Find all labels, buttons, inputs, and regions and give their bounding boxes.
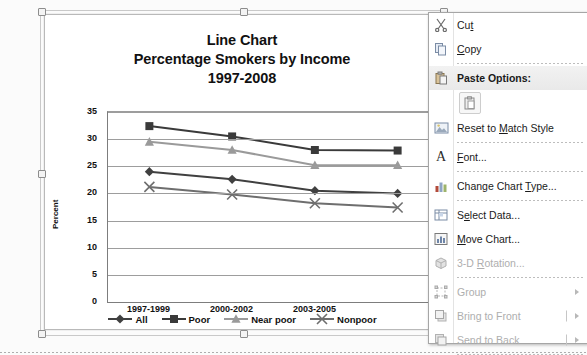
paste-options-row [429, 90, 587, 116]
plot-grid [107, 111, 439, 303]
legend-marker-triangle [223, 313, 249, 325]
submenu-arrow-icon [575, 289, 579, 295]
gridline [108, 248, 439, 249]
menu-item-reset-to-match-style[interactable]: Reset to Match Style [429, 116, 587, 140]
menu-item-cut[interactable]: Cut [429, 13, 587, 37]
chart-area[interactable]: Line Chart Percentage Smokers by Income … [44, 14, 440, 330]
page-bottom-edge [0, 352, 587, 353]
gridline [108, 166, 439, 167]
legend-marker-square [161, 313, 187, 325]
legend-label: Near poor [251, 314, 296, 325]
menu-separator [457, 200, 583, 201]
y-axis-tick: 30 [71, 133, 97, 143]
y-axis-tick: 35 [71, 106, 97, 116]
menu-item-label: Bring to Front [457, 310, 521, 322]
menu-item-send-to-back: Send to Back [429, 328, 587, 352]
menu-item-move-chart[interactable]: Move Chart... [429, 227, 587, 251]
series-near-poor[interactable] [145, 137, 402, 169]
y-axis-tick: 20 [71, 187, 97, 197]
menu-item-label: Paste Options: [457, 72, 531, 84]
data-point-marker [145, 167, 154, 176]
menu-item-bring-to-front: Bring to Front [429, 304, 587, 328]
menu-separator [457, 171, 583, 172]
y-axis-ticks: 35302520151050 [71, 111, 97, 301]
data-point-marker [170, 315, 178, 323]
y-axis-title: Percent [51, 215, 60, 229]
legend-marker-diamond [107, 313, 133, 325]
series-line [149, 142, 397, 165]
menu-item-3-d-rotation: 3-D Rotation... [429, 251, 587, 275]
data-point-marker [145, 122, 153, 130]
y-axis-tick: 25 [71, 160, 97, 170]
send-back-icon [432, 331, 450, 349]
chart-legend[interactable]: AllPoorNear poorNonpoor [45, 313, 439, 325]
legend-marker-cross [309, 313, 335, 325]
menu-item-divider [566, 311, 567, 322]
submenu-arrow-icon [575, 313, 579, 319]
menu-item-label: Select Data... [457, 209, 520, 221]
data-point-marker [228, 175, 237, 184]
menu-separator [457, 63, 583, 64]
paste-icon [432, 69, 450, 87]
series-nonpoor[interactable] [144, 182, 402, 213]
legend-item-near-poor[interactable]: Near poor [223, 313, 296, 325]
gridline [108, 193, 439, 194]
gridline [108, 221, 439, 222]
menu-separator [457, 277, 583, 278]
resize-handle-bottom-center[interactable] [240, 330, 248, 338]
menu-item-label: Cut [457, 19, 473, 31]
legend-label: All [135, 314, 147, 325]
menu-item-change-chart-type[interactable]: Change Chart Type... [429, 174, 587, 198]
copy-icon [432, 40, 450, 58]
menu-item-divider [566, 335, 567, 346]
menu-item-group: Group [429, 280, 587, 304]
y-axis-tick: 0 [71, 296, 97, 306]
font-a-icon: A [432, 148, 450, 166]
context-menu[interactable]: CutCopyPaste Options:Reset to Match Styl… [428, 12, 587, 344]
gridline [108, 112, 439, 113]
y-axis-tick: 10 [71, 242, 97, 252]
gridline [108, 139, 439, 140]
chart-title-line-1: Line Chart [45, 31, 439, 50]
chart-title-line-3: 1997-2008 [45, 69, 439, 88]
y-axis-tick: 15 [71, 215, 97, 225]
legend-item-all[interactable]: All [107, 313, 147, 325]
submenu-arrow-icon [575, 337, 579, 343]
legend-item-nonpoor[interactable]: Nonpoor [309, 313, 377, 325]
bar-chart-icon [432, 177, 450, 195]
menu-item-label: Font... [457, 151, 487, 163]
data-point-marker [311, 146, 319, 154]
legend-item-poor[interactable]: Poor [161, 313, 211, 325]
bring-front-icon [432, 307, 450, 325]
menu-item-label: Reset to Match Style [457, 122, 554, 134]
menu-item-select-data[interactable]: Select Data... [429, 203, 587, 227]
clipboard-icon[interactable] [459, 92, 481, 114]
menu-item-paste-options[interactable]: Paste Options: [429, 66, 587, 90]
legend-label: Poor [189, 314, 211, 325]
scissors-icon [432, 16, 450, 34]
y-axis-tick: 5 [71, 269, 97, 279]
move-chart-icon [432, 230, 450, 248]
menu-item-copy[interactable]: Copy [429, 37, 587, 61]
series-lines [108, 112, 439, 302]
resize-handle-bottom-left[interactable] [38, 330, 46, 338]
chart-title[interactable]: Line Chart Percentage Smokers by Income … [45, 31, 439, 88]
data-point-marker [394, 147, 402, 155]
select-data-icon [432, 206, 450, 224]
gridline [108, 275, 439, 276]
group-icon [432, 283, 450, 301]
legend-label: Nonpoor [337, 314, 377, 325]
menu-item-label: Change Chart Type... [457, 180, 557, 192]
plot-area[interactable]: Percent 35302520151050 1997-19992000-200… [45, 111, 439, 301]
cube-icon [432, 254, 450, 272]
chart-title-line-2: Percentage Smokers by Income [45, 50, 439, 69]
series-line [149, 187, 397, 208]
slide-canvas: Line Chart Percentage Smokers by Income … [0, 0, 587, 355]
picture-icon [432, 119, 450, 137]
menu-item-font[interactable]: AFont... [429, 145, 587, 169]
menu-item-label: Copy [457, 43, 482, 55]
menu-item-label: Group [457, 286, 486, 298]
menu-separator [457, 142, 583, 143]
menu-item-label: 3-D Rotation... [457, 257, 525, 269]
menu-item-label: Move Chart... [457, 233, 520, 245]
